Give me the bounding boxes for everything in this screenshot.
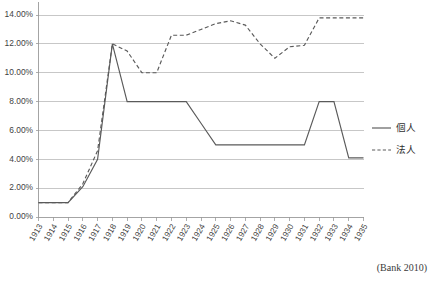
x-axis-tick-label: 1928 — [249, 222, 266, 243]
x-axis-tick-label: 1927 — [234, 222, 251, 243]
x-axis-tick-label: 1933 — [323, 222, 340, 243]
line-chart: 0.00%2.00%4.00%6.00%8.00%10.00%12.00%14.… — [0, 0, 432, 281]
series-group — [39, 18, 364, 203]
x-axis-tick-label: 1918 — [101, 222, 118, 243]
x-axis-tick-label: 1923 — [175, 222, 192, 243]
y-axis-tick-label: 6.00% — [9, 125, 33, 135]
x-axis-tick-label: 1919 — [116, 222, 133, 243]
x-axis-tick-label: 1926 — [220, 222, 237, 243]
x-axis-tick-label: 1914 — [42, 222, 59, 243]
y-axis-tick-label: 2.00% — [9, 182, 33, 192]
chart-legend: 個人法人 — [372, 122, 416, 155]
series-line-kojin — [39, 44, 364, 203]
x-axis-tick-label: 1921 — [146, 222, 163, 243]
x-axis-tick-label: 1915 — [57, 222, 74, 243]
x-axis-tick-label: 1924 — [190, 222, 207, 243]
series-line-hojin — [39, 18, 364, 203]
x-axis-ticks-group — [39, 217, 364, 221]
x-axis-tick-label: 1922 — [160, 222, 177, 243]
y-axis-tick-label: 14.00% — [5, 9, 34, 19]
x-axis-tick-label: 1913 — [28, 222, 45, 243]
x-axis-tick-label: 1925 — [205, 222, 222, 243]
x-axis-tick-label: 1916 — [72, 222, 89, 243]
y-axis-tick-label: 0.00% — [9, 211, 33, 221]
source-attribution: (Bank 2010) — [377, 262, 427, 274]
y-axis-tick-label: 4.00% — [9, 154, 33, 164]
x-axis-tick-label: 1917 — [87, 222, 104, 243]
x-axis-tick-label: 1931 — [293, 222, 310, 243]
legend-label-kojin: 個人 — [396, 122, 416, 133]
x-axis-tick-label: 1932 — [308, 222, 325, 243]
legend-label-hojin: 法人 — [396, 144, 416, 155]
y-axis-tick-label: 12.00% — [5, 38, 34, 48]
x-axis-tick-label: 1920 — [131, 222, 148, 243]
x-axis-tick-label: 1930 — [279, 222, 296, 243]
x-axis-tick-label: 1929 — [264, 222, 281, 243]
x-axis-labels-group: 1913191419151916191719181919192019211922… — [28, 222, 370, 243]
y-axis-tick-label: 10.00% — [5, 67, 34, 77]
x-axis-tick-label: 1935 — [353, 222, 370, 243]
x-axis-tick-label: 1934 — [338, 222, 355, 243]
y-axis-labels-group: 0.00%2.00%4.00%6.00%8.00%10.00%12.00%14.… — [5, 9, 34, 221]
chart-figure: 0.00%2.00%4.00%6.00%8.00%10.00%12.00%14.… — [0, 0, 432, 281]
y-axis-tick-label: 8.00% — [9, 96, 33, 106]
